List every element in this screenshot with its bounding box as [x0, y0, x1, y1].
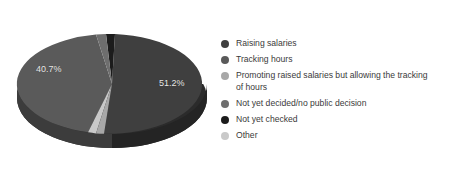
pie-svg: [0, 0, 225, 173]
legend-item-tracking-hours[interactable]: Tracking hours: [221, 54, 445, 66]
legend-item-raising-salaries[interactable]: Raising salaries: [221, 38, 445, 50]
legend-label: Not yet decided/no public decision: [236, 98, 366, 110]
pie-label-raising-salaries: 51.2%: [159, 78, 185, 88]
legend-swatch-icon: [221, 56, 229, 64]
chart-legend: Raising salaries Tracking hours Promotin…: [221, 38, 445, 146]
legend-swatch-icon: [221, 72, 229, 80]
legend-swatch-icon: [221, 116, 229, 124]
legend-label: Promoting raised salaries but allowing t…: [236, 70, 432, 93]
legend-label: Not yet checked: [236, 114, 298, 126]
legend-label: Tracking hours: [236, 54, 293, 66]
legend-item-not-yet-decided[interactable]: Not yet decided/no public decision: [221, 98, 445, 110]
legend-item-other[interactable]: Other: [221, 130, 445, 142]
legend-label: Other: [236, 130, 258, 142]
pie-plot-area: 51.2% 40.7%: [0, 0, 225, 173]
legend-item-promoting-raised-salaries[interactable]: Promoting raised salaries but allowing t…: [221, 70, 445, 93]
legend-swatch-icon: [221, 132, 229, 140]
legend-label: Raising salaries: [236, 38, 297, 50]
legend-swatch-icon: [221, 100, 229, 108]
pie-label-tracking-hours: 40.7%: [36, 64, 62, 74]
legend-item-not-yet-checked[interactable]: Not yet checked: [221, 114, 445, 126]
legend-swatch-icon: [221, 40, 229, 48]
pie-chart-figure: 51.2% 40.7% Raising salaries Tracking ho…: [0, 0, 449, 173]
